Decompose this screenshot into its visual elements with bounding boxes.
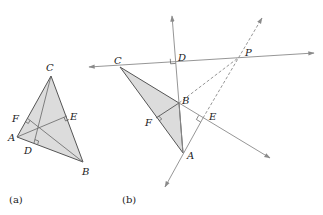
label-f-b: F (144, 117, 153, 128)
label-c-b: C (114, 55, 122, 66)
figure-b: C B A D E F P (b) (89, 16, 314, 205)
line-cd-extended (89, 53, 314, 67)
label-e-b: E (208, 111, 217, 122)
caption-b: (b) (122, 194, 136, 205)
triangle-abc-b (120, 67, 183, 153)
label-f-a: F (11, 113, 20, 124)
figure-a: C A B D E F (a) (7, 62, 89, 205)
caption-a: (a) (9, 194, 23, 205)
label-b-b: B (181, 95, 189, 106)
label-d-a: D (23, 145, 32, 156)
label-a-a: A (7, 132, 15, 143)
label-e-a: E (69, 111, 78, 122)
dashed-line-ep (203, 18, 262, 118)
label-d-b: D (177, 52, 186, 63)
right-angle-e (196, 115, 200, 122)
label-c-a: C (46, 62, 54, 73)
label-b-a: B (81, 166, 89, 177)
label-a-b: A (186, 150, 194, 161)
diagram-canvas: C A B D E F (a) C B A D E F P (b) (0, 0, 323, 215)
label-p: P (244, 47, 252, 58)
